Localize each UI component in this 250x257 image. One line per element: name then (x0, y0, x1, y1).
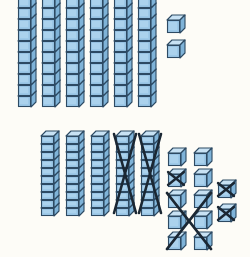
cube-faces (168, 190, 186, 208)
ones-cube-cluster-r3c1 (168, 190, 186, 208)
ones-cube-cluster-r4c2 (194, 211, 212, 229)
ones-cube-top-2 (167, 40, 185, 58)
tens-rod-bottom-3 (91, 131, 109, 216)
ones-cube-extra-2 (218, 204, 236, 222)
cube-faces (42, 0, 60, 8)
tens-rod-bottom-2 (66, 131, 84, 216)
cube-faces (218, 180, 236, 198)
tens-rod-top-3 (66, 0, 84, 107)
ones-cube-cluster-r1c1 (168, 148, 186, 166)
tens-rod-bottom-1 (41, 131, 59, 216)
rod-unit-cube (91, 131, 109, 144)
cube-faces (168, 169, 186, 187)
cube-faces (41, 131, 59, 144)
cube-faces (168, 211, 186, 229)
cube-faces (168, 232, 186, 250)
cube-faces (90, 0, 108, 8)
cube-faces (194, 211, 212, 229)
cube-faces (141, 131, 159, 144)
cube-faces (18, 0, 36, 8)
ones-cube-cluster-r2c1 (168, 169, 186, 187)
tens-rod-top-5 (114, 0, 132, 107)
ones-cube-cluster-r1c2 (194, 148, 212, 166)
cube-faces (194, 148, 212, 166)
base-ten-blocks-canvas: Base-ten blocks subtraction with regroup… (0, 0, 250, 257)
rod-unit-cube (138, 0, 156, 8)
rod-unit-cube (116, 131, 134, 144)
cube-faces (167, 40, 185, 58)
rod-unit-cube (90, 0, 108, 8)
rod-unit-cube (66, 0, 84, 8)
rod-unit-cube (114, 0, 132, 8)
ones-cube-cluster-r2c2 (194, 169, 212, 187)
cube-faces (66, 0, 84, 8)
ones-cube-extra-1 (218, 180, 236, 198)
ones-cube-cluster-r5c1 (168, 232, 186, 250)
cube-faces (168, 148, 186, 166)
cube-faces (167, 15, 185, 33)
tens-rod-top-6 (138, 0, 156, 107)
rod-unit-cube (141, 131, 159, 144)
rod-unit-cube (42, 0, 60, 8)
cube-faces (114, 0, 132, 8)
cube-faces (91, 131, 109, 144)
ones-cube-cluster-r3c2 (194, 190, 212, 208)
ones-cube-cluster-r5c2 (194, 232, 212, 250)
cube-faces (116, 131, 134, 144)
rod-unit-cube (18, 0, 36, 8)
cube-faces (194, 169, 212, 187)
cube-faces (138, 0, 156, 8)
ones-cube-top-1 (167, 15, 185, 33)
cube-faces (218, 204, 236, 222)
cube-faces (66, 131, 84, 144)
tens-rod-top-2 (42, 0, 60, 107)
tens-rod-bottom-5 (141, 131, 159, 216)
rod-unit-cube (66, 131, 84, 144)
tens-rod-top-4 (90, 0, 108, 107)
ones-cube-cluster-r4c1 (168, 211, 186, 229)
rod-unit-cube (41, 131, 59, 144)
tens-rod-bottom-4 (116, 131, 134, 216)
cube-faces (194, 190, 212, 208)
cube-faces (194, 232, 212, 250)
tens-rod-top-1 (18, 0, 36, 107)
